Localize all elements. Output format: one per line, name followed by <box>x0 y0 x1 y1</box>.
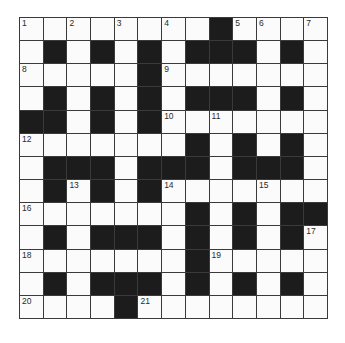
letter-cell[interactable] <box>91 203 114 225</box>
letter-cell[interactable] <box>162 203 185 225</box>
letter-cell[interactable]: 17 <box>304 226 327 248</box>
letter-cell[interactable] <box>162 87 185 109</box>
letter-cell[interactable] <box>115 134 138 156</box>
letter-cell[interactable] <box>257 226 280 248</box>
letter-cell[interactable] <box>233 64 256 86</box>
letter-cell[interactable] <box>115 203 138 225</box>
letter-cell[interactable]: 18 <box>20 250 43 272</box>
letter-cell[interactable] <box>304 157 327 179</box>
letter-cell[interactable] <box>304 111 327 133</box>
letter-cell[interactable] <box>304 180 327 202</box>
letter-cell[interactable]: 8 <box>20 64 43 86</box>
letter-cell[interactable] <box>210 296 233 318</box>
letter-cell[interactable] <box>281 64 304 86</box>
letter-cell[interactable] <box>304 41 327 63</box>
letter-cell[interactable] <box>162 134 185 156</box>
letter-cell[interactable]: 10 <box>162 111 185 133</box>
letter-cell[interactable] <box>91 18 114 40</box>
letter-cell[interactable] <box>162 273 185 295</box>
letter-cell[interactable] <box>281 180 304 202</box>
letter-cell[interactable] <box>233 296 256 318</box>
letter-cell[interactable] <box>257 111 280 133</box>
letter-cell[interactable] <box>138 18 161 40</box>
letter-cell[interactable] <box>138 134 161 156</box>
letter-cell[interactable] <box>281 18 304 40</box>
letter-cell[interactable] <box>44 134 67 156</box>
letter-cell[interactable] <box>67 226 90 248</box>
letter-cell[interactable] <box>67 273 90 295</box>
letter-cell[interactable]: 15 <box>257 180 280 202</box>
letter-cell[interactable] <box>67 111 90 133</box>
letter-cell[interactable] <box>138 203 161 225</box>
letter-cell[interactable] <box>44 296 67 318</box>
letter-cell[interactable] <box>91 64 114 86</box>
letter-cell[interactable]: 14 <box>162 180 185 202</box>
letter-cell[interactable] <box>162 226 185 248</box>
letter-cell[interactable]: 4 <box>162 18 185 40</box>
letter-cell[interactable] <box>20 180 43 202</box>
letter-cell[interactable] <box>186 64 209 86</box>
letter-cell[interactable] <box>162 250 185 272</box>
letter-cell[interactable] <box>162 296 185 318</box>
letter-cell[interactable] <box>304 250 327 272</box>
letter-cell[interactable] <box>257 296 280 318</box>
letter-cell[interactable] <box>162 41 185 63</box>
letter-cell[interactable] <box>115 111 138 133</box>
letter-cell[interactable] <box>44 203 67 225</box>
letter-cell[interactable] <box>257 87 280 109</box>
letter-cell[interactable] <box>304 134 327 156</box>
letter-cell[interactable]: 1 <box>20 18 43 40</box>
letter-cell[interactable]: 2 <box>67 18 90 40</box>
letter-cell[interactable] <box>233 111 256 133</box>
letter-cell[interactable] <box>304 273 327 295</box>
letter-cell[interactable] <box>210 226 233 248</box>
letter-cell[interactable]: 20 <box>20 296 43 318</box>
letter-cell[interactable] <box>233 250 256 272</box>
letter-cell[interactable] <box>115 180 138 202</box>
letter-cell[interactable] <box>20 226 43 248</box>
letter-cell[interactable]: 12 <box>20 134 43 156</box>
letter-cell[interactable] <box>304 87 327 109</box>
letter-cell[interactable] <box>186 18 209 40</box>
letter-cell[interactable] <box>115 87 138 109</box>
letter-cell[interactable]: 11 <box>210 111 233 133</box>
letter-cell[interactable] <box>257 41 280 63</box>
letter-cell[interactable]: 7 <box>304 18 327 40</box>
letter-cell[interactable] <box>304 296 327 318</box>
letter-cell[interactable] <box>91 250 114 272</box>
letter-cell[interactable]: 9 <box>162 64 185 86</box>
letter-cell[interactable] <box>115 64 138 86</box>
letter-cell[interactable] <box>210 134 233 156</box>
letter-cell[interactable] <box>281 296 304 318</box>
letter-cell[interactable]: 19 <box>210 250 233 272</box>
letter-cell[interactable] <box>210 203 233 225</box>
letter-cell[interactable] <box>210 273 233 295</box>
letter-cell[interactable] <box>115 157 138 179</box>
letter-cell[interactable] <box>44 64 67 86</box>
letter-cell[interactable] <box>44 250 67 272</box>
letter-cell[interactable] <box>210 64 233 86</box>
letter-cell[interactable] <box>233 180 256 202</box>
letter-cell[interactable] <box>20 87 43 109</box>
letter-cell[interactable] <box>67 296 90 318</box>
letter-cell[interactable] <box>257 203 280 225</box>
letter-cell[interactable] <box>138 250 161 272</box>
letter-cell[interactable] <box>210 157 233 179</box>
letter-cell[interactable] <box>257 273 280 295</box>
letter-cell[interactable] <box>91 134 114 156</box>
letter-cell[interactable] <box>67 203 90 225</box>
letter-cell[interactable]: 13 <box>67 180 90 202</box>
letter-cell[interactable] <box>20 273 43 295</box>
letter-cell[interactable]: 3 <box>115 18 138 40</box>
letter-cell[interactable] <box>67 41 90 63</box>
letter-cell[interactable] <box>304 64 327 86</box>
letter-cell[interactable] <box>67 250 90 272</box>
letter-cell[interactable] <box>67 87 90 109</box>
letter-cell[interactable] <box>20 41 43 63</box>
letter-cell[interactable] <box>186 111 209 133</box>
letter-cell[interactable] <box>257 134 280 156</box>
letter-cell[interactable] <box>281 111 304 133</box>
letter-cell[interactable] <box>186 296 209 318</box>
letter-cell[interactable] <box>115 41 138 63</box>
letter-cell[interactable] <box>67 64 90 86</box>
